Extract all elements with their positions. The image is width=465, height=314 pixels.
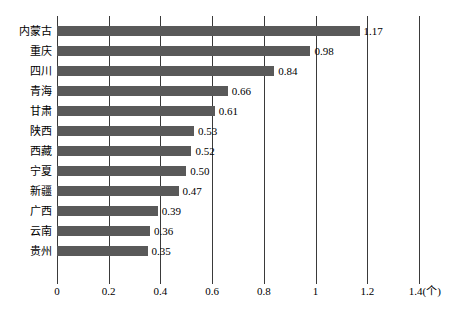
x-tick-label: 1.2 — [360, 286, 374, 297]
bar-row[interactable]: 0.35 — [57, 241, 419, 261]
bar[interactable] — [57, 126, 194, 136]
category-label: 广西 — [5, 201, 57, 221]
category-label: 四川 — [5, 61, 57, 81]
category-label: 内蒙古 — [5, 21, 57, 41]
x-tick-label: 0.8 — [257, 286, 271, 297]
x-tick-label: 0.2 — [102, 286, 116, 297]
bar-row[interactable]: 0.66 — [57, 81, 419, 101]
x-tick-label: 0.6 — [205, 286, 219, 297]
bar-row[interactable]: 0.84 — [57, 61, 419, 81]
bar-value-label: 0.98 — [314, 46, 333, 57]
bar-row[interactable]: 0.36 — [57, 221, 419, 241]
bar-row[interactable]: 0.47 — [57, 181, 419, 201]
x-axis: 00.20.40.60.811.21.4(个) — [57, 280, 419, 310]
bar[interactable] — [57, 66, 274, 76]
category-axis: 内蒙古重庆四川青海甘肃陕西西藏宁夏新疆广西云南贵州 — [0, 16, 57, 280]
plot-area: 1.170.980.840.660.610.530.520.500.470.39… — [57, 16, 419, 280]
bar-row[interactable]: 0.53 — [57, 121, 419, 141]
bar-value-label: 0.66 — [232, 86, 251, 97]
bar-value-label: 0.36 — [154, 226, 173, 237]
category-label: 陕西 — [5, 121, 57, 141]
bar-row[interactable]: 0.61 — [57, 101, 419, 121]
x-tick-mark — [109, 280, 110, 284]
bar-row[interactable]: 0.39 — [57, 201, 419, 221]
bar-row[interactable]: 0.98 — [57, 41, 419, 61]
x-tick-mark — [160, 280, 161, 284]
bar-value-label: 0.52 — [195, 146, 214, 157]
x-tick-mark — [264, 280, 265, 284]
bar-value-label: 0.61 — [219, 106, 238, 117]
bar-value-label: 0.47 — [183, 186, 202, 197]
x-tick-label: 0.4 — [154, 286, 168, 297]
bar-chart: 内蒙古重庆四川青海甘肃陕西西藏宁夏新疆广西云南贵州 1.170.980.840.… — [0, 0, 465, 314]
bar-value-label: 1.17 — [364, 26, 383, 37]
bar-value-label: 0.35 — [152, 246, 171, 257]
x-tick-mark — [419, 280, 420, 284]
bar[interactable] — [57, 146, 191, 156]
category-label: 西藏 — [5, 141, 57, 161]
bar-value-label: 0.84 — [278, 66, 297, 77]
category-label: 甘肃 — [5, 101, 57, 121]
x-tick-label: 1 — [313, 286, 319, 297]
category-label: 青海 — [5, 81, 57, 101]
bar-value-label: 0.53 — [198, 126, 217, 137]
category-label: 重庆 — [5, 41, 57, 61]
bar[interactable] — [57, 206, 158, 216]
bar[interactable] — [57, 186, 179, 196]
bar-row[interactable]: 1.17 — [57, 21, 419, 41]
x-tick-label: 0 — [54, 286, 60, 297]
bar[interactable] — [57, 166, 186, 176]
x-tick-mark — [316, 280, 317, 284]
x-tick-mark — [57, 280, 58, 284]
x-tick-label: 1.4(个) — [409, 286, 441, 297]
bar-value-label: 0.39 — [162, 206, 181, 217]
bar-row[interactable]: 0.50 — [57, 161, 419, 181]
gridline — [419, 16, 420, 280]
category-label: 贵州 — [5, 241, 57, 261]
x-tick-mark — [367, 280, 368, 284]
bar[interactable] — [57, 26, 360, 36]
bar-value-label: 0.50 — [190, 166, 209, 177]
bar[interactable] — [57, 46, 310, 56]
x-tick-mark — [212, 280, 213, 284]
category-label: 云南 — [5, 221, 57, 241]
category-label: 宁夏 — [5, 161, 57, 181]
bar[interactable] — [57, 86, 228, 96]
bar-row[interactable]: 0.52 — [57, 141, 419, 161]
category-label: 新疆 — [5, 181, 57, 201]
bar[interactable] — [57, 106, 215, 116]
bar[interactable] — [57, 246, 148, 256]
bar[interactable] — [57, 226, 150, 236]
